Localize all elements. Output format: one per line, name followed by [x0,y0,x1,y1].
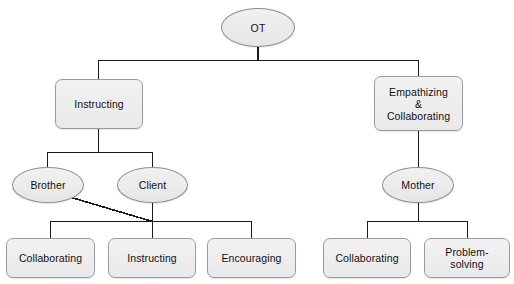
node-instructing-branch-label: Instructing [71,98,127,110]
node-instructing-branch[interactable]: Instructing [55,79,143,129]
node-leaf-encouraging[interactable]: Encouraging [207,238,296,278]
node-leaf-problem-solving[interactable]: Problem- solving [424,238,510,278]
node-leaf-instructing[interactable]: Instructing [108,238,196,278]
node-client[interactable]: Client [117,167,188,203]
node-ot-label: OT [248,22,269,34]
node-mother[interactable]: Mother [382,167,454,203]
node-leaf-collaborating-left-label: Collaborating [16,252,85,264]
node-brother-label: Brother [27,179,68,191]
node-leaf-problem-solving-label: Problem- solving [442,246,491,270]
node-empathizing-collaborating-branch-label: Empathizing & Collaborating [384,86,453,122]
node-leaf-instructing-label: Instructing [124,252,180,264]
node-empathizing-collaborating-branch[interactable]: Empathizing & Collaborating [374,76,463,131]
node-leaf-encouraging-label: Encouraging [218,252,284,264]
node-mother-label: Mother [398,179,437,191]
node-leaf-collaborating-right-label: Collaborating [332,252,401,264]
diagram-canvas: OT Instructing Empathizing & Collaborati… [0,0,514,284]
node-leaf-collaborating-left[interactable]: Collaborating [6,238,95,278]
node-leaf-collaborating-right[interactable]: Collaborating [323,238,411,278]
node-brother[interactable]: Brother [12,167,84,203]
node-client-label: Client [136,179,169,191]
node-ot[interactable]: OT [221,8,295,47]
